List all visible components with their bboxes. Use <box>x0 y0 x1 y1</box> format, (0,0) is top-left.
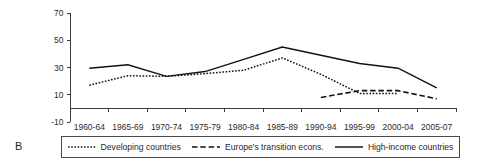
panel-label: B <box>15 140 23 152</box>
line-chart: -10103050701960-641965-691970-741975-791… <box>0 0 479 130</box>
y-tick-label: 30 <box>54 63 64 73</box>
legend-swatch-dashed-icon <box>192 143 220 151</box>
legend-item: Developing countries <box>66 143 183 152</box>
x-tick-label: 1965-69 <box>112 122 143 131</box>
chart-plot-area: -10103050701960-641965-691970-741975-791… <box>0 0 479 130</box>
x-tick-label: 1980-84 <box>228 122 259 131</box>
legend-item: High-income countries <box>333 143 456 152</box>
legend-label: Europe's transition econs. <box>225 143 324 152</box>
series-line-dashed <box>321 91 437 99</box>
y-tick-label: -10 <box>51 117 64 127</box>
x-tick-label: 1995-99 <box>344 122 375 131</box>
x-tick-label: 2005-07 <box>421 122 452 131</box>
legend-swatch-solid-icon <box>335 143 363 151</box>
legend-item: Europe's transition econs. <box>190 143 326 152</box>
y-tick-label: 70 <box>54 8 64 18</box>
x-tick-label: 2000-04 <box>382 122 413 131</box>
series-line-dotted <box>89 58 398 93</box>
y-tick-label: 50 <box>54 35 64 45</box>
x-tick-label: 1960-64 <box>74 122 105 131</box>
y-tick-label: 10 <box>54 90 64 100</box>
figure-panel-b: -10103050701960-641965-691970-741975-791… <box>0 0 479 164</box>
legend-label: High-income countries <box>368 143 454 152</box>
legend-label: Developing countries <box>101 143 181 152</box>
series-line-solid <box>89 47 436 88</box>
x-tick-label: 1985-89 <box>267 122 298 131</box>
x-tick-label: 1970-74 <box>151 122 182 131</box>
chart-legend: Developing countriesEurope's transition … <box>61 136 460 158</box>
x-tick-label: 1975-79 <box>189 122 220 131</box>
legend-swatch-dotted-icon <box>68 143 96 151</box>
x-tick-label: 1990-94 <box>305 122 336 131</box>
